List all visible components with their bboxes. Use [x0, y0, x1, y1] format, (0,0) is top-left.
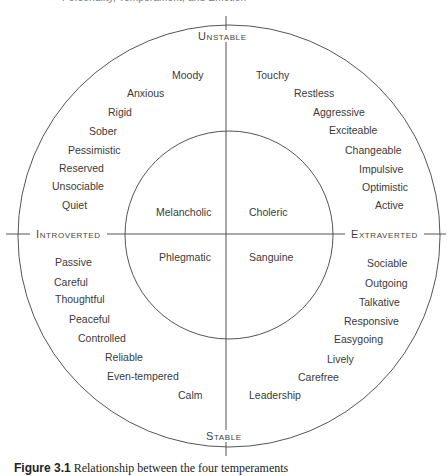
trait-talkative: Talkative — [359, 296, 400, 308]
inner-circle — [125, 131, 333, 339]
trait-impulsive: Impulsive — [359, 163, 403, 175]
trait-thoughtful: Thoughtful — [55, 293, 105, 305]
trait-exciteable: Exciteable — [329, 124, 377, 136]
trait-sober: Sober — [89, 125, 117, 137]
trait-leadership: Leadership — [249, 389, 301, 401]
temperament-choleric: Choleric — [249, 206, 288, 218]
trait-passive: Passive — [55, 256, 92, 268]
trait-responsive: Responsive — [344, 315, 399, 327]
trait-touchy: Touchy — [256, 69, 289, 81]
temperament-melancholic: Melancholic — [156, 206, 211, 218]
trait-carefree: Carefree — [298, 371, 339, 383]
trait-peaceful: Peaceful — [69, 313, 110, 325]
trait-easygoing: Easygoing — [334, 333, 383, 345]
trait-sociable: Sociable — [367, 257, 407, 269]
axis-label-extraverted: Extraverted — [345, 228, 424, 240]
trait-optimistic: Optimistic — [362, 181, 408, 193]
trait-anxious: Anxious — [127, 87, 164, 99]
trait-changeable: Changeable — [345, 144, 402, 156]
trait-moody: Moody — [172, 69, 204, 81]
figure-label: Figure 3.1 — [14, 461, 71, 475]
temperament-sanguine: Sanguine — [249, 251, 293, 263]
trait-rigid: Rigid — [108, 106, 132, 118]
axis-label-stable: Stable — [200, 430, 248, 442]
trait-unsociable: Unsociable — [52, 180, 104, 192]
figure-caption: Figure 3.1 Relationship between the four… — [14, 461, 288, 476]
trait-outgoing: Outgoing — [365, 277, 408, 289]
trait-careful: Careful — [54, 276, 88, 288]
trait-lively: Lively — [327, 353, 354, 365]
figure-caption-text: Relationship between the four temperamen… — [74, 461, 289, 475]
trait-restless: Restless — [294, 87, 334, 99]
axis-label-introverted: Introverted — [30, 228, 107, 240]
trait-active: Active — [375, 199, 404, 211]
trait-controlled: Controlled — [78, 332, 126, 344]
axis-label-unstable: Unstable — [192, 30, 253, 42]
trait-aggressive: Aggressive — [313, 106, 365, 118]
trait-reserved: Reserved — [59, 162, 104, 174]
trait-pessimistic: Pessimistic — [68, 144, 121, 156]
temperament-phlegmatic: Phlegmatic — [159, 251, 211, 263]
trait-reliable: Reliable — [105, 351, 143, 363]
trait-even-tempered: Even-tempered — [107, 370, 179, 382]
trait-calm: Calm — [178, 389, 203, 401]
trait-quiet: Quiet — [62, 199, 87, 211]
